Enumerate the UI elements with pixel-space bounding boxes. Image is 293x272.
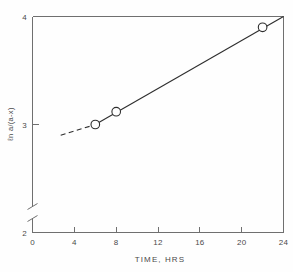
x-tick-label-4: 4: [72, 238, 77, 247]
axis-break-marker: [28, 204, 38, 222]
plot-area: 4 3 2 0 4 8 12 16 20 24 TIME, HRS ℓn a/(…: [0, 0, 293, 272]
x-tick-label-16: 16: [195, 238, 205, 247]
x-tick-label-0: 0: [30, 238, 35, 247]
data-point: [91, 120, 100, 129]
y-tick-label-4: 4: [22, 13, 27, 22]
x-tick-label-8: 8: [114, 238, 119, 247]
y-tick-label-2: 2: [22, 229, 27, 238]
trend-line-dashed: [61, 125, 96, 136]
y-axis-ticks: [33, 17, 39, 233]
y-tick-label-3: 3: [22, 121, 27, 130]
x-axis-ticks: [33, 227, 284, 233]
trend-line-solid: [95, 17, 283, 125]
axis-frame: [33, 17, 284, 233]
x-tick-label-12: 12: [153, 238, 163, 247]
y-axis-title: ℓn a/(a-x): [6, 107, 15, 142]
x-tick-label-24: 24: [279, 238, 289, 247]
x-tick-label-20: 20: [237, 238, 247, 247]
data-markers: [91, 23, 267, 129]
data-point: [112, 107, 121, 116]
chart-figure: 4 3 2 0 4 8 12 16 20 24 TIME, HRS ℓn a/(…: [0, 0, 293, 272]
x-axis-title: TIME, HRS: [135, 255, 185, 264]
data-point: [258, 23, 267, 32]
